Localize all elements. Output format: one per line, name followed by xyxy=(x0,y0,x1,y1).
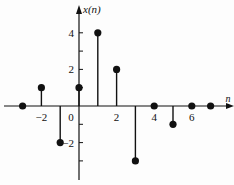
x-tick-label: 2 xyxy=(114,111,120,123)
x-tick-label: 6 xyxy=(189,111,195,123)
stem-marker xyxy=(19,102,26,109)
stem-marker xyxy=(75,84,82,91)
stem-marker xyxy=(94,29,101,36)
stem-marker xyxy=(207,102,214,109)
y-tick-label: −2 xyxy=(62,137,74,149)
stem-marker xyxy=(188,102,195,109)
stem-marker xyxy=(38,84,45,91)
y-axis-label: x(n) xyxy=(82,3,101,16)
y-tick-label: 4 xyxy=(69,27,75,39)
stems xyxy=(19,29,214,164)
y-tick-label: 2 xyxy=(69,63,75,75)
labels: 24−2−20246x(n)n xyxy=(36,3,231,149)
x-tick-label: 0 xyxy=(68,111,74,123)
stem-plot: 24−2−20246x(n)n xyxy=(0,0,234,185)
x-tick-label: 4 xyxy=(151,111,157,123)
stem-marker xyxy=(113,66,120,73)
stem-marker xyxy=(132,157,139,164)
stem-marker xyxy=(151,102,158,109)
x-axis-label: n xyxy=(226,93,231,104)
y-axis-arrow-icon xyxy=(76,5,82,14)
axes xyxy=(4,5,234,180)
x-tick-label: −2 xyxy=(36,111,48,123)
stem-marker xyxy=(169,121,176,128)
